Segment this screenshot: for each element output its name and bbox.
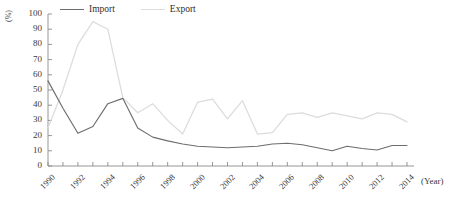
line-chart: (%) Import Export 0102030405060708090100…	[0, 0, 450, 213]
y-tick-label: 10	[20, 146, 42, 155]
y-tick-label: 100	[20, 9, 42, 18]
y-tick-label: 60	[20, 70, 42, 79]
y-tick-label: 90	[20, 24, 42, 33]
y-tick-label: 80	[20, 39, 42, 48]
y-tick-label: 30	[20, 115, 42, 124]
y-tick-label: 50	[20, 85, 42, 94]
y-tick-label: 20	[20, 131, 42, 140]
y-tick-label: 0	[20, 161, 42, 170]
y-tick-label: 40	[20, 100, 42, 109]
y-tick-label: 70	[20, 55, 42, 64]
x-axis-title: (Year)	[421, 176, 444, 186]
